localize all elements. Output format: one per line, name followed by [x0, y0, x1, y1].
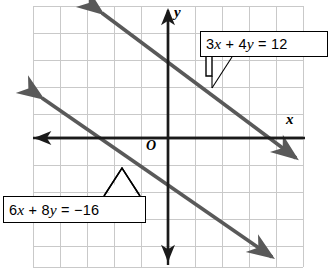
line-6x-8y-neg16 [42, 98, 272, 257]
equation-callout-lower: 6x + 8y = −16 [3, 196, 146, 223]
equation-text-lower: 6x + 8y = −16 [9, 201, 99, 219]
x-axis-label: x [286, 112, 294, 127]
coordinate-graph-figure: y x O 3x + 4y = 12 6x + 8y = −16 [0, 0, 335, 268]
equation-text-upper: 3x + 4y = 12 [206, 35, 288, 53]
origin-label: O [146, 139, 156, 153]
equation-callout-upper: 3x + 4y = 12 [200, 31, 328, 57]
callout-upper-leader [206, 57, 212, 76]
y-axis-label: y [174, 5, 181, 20]
